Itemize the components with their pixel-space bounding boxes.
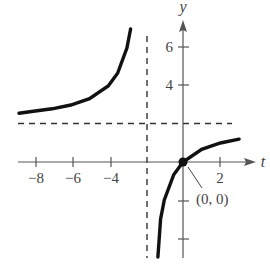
left-branch-curve	[19, 29, 131, 113]
y-axis-label: y	[177, 0, 187, 16]
t-axis-label: t	[261, 153, 266, 170]
rational-function-graph: −8 −6 −4 2 6 4 y t (0, 0)	[0, 0, 270, 264]
t-tick-label: −6	[65, 170, 81, 186]
point-callout-line	[188, 167, 202, 188]
t-tick-label: −4	[103, 170, 119, 186]
t-tick-label: 2	[216, 170, 224, 186]
point-label: (0, 0)	[196, 191, 229, 208]
origin-point	[179, 158, 188, 167]
t-tick-label: −8	[28, 170, 44, 186]
y-tick-label: 6	[166, 39, 174, 55]
y-tick-label: 4	[166, 77, 174, 93]
